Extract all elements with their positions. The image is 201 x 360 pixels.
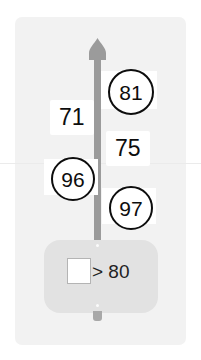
white-square-swatch xyxy=(67,258,91,284)
annotation-81: 81 xyxy=(108,69,154,115)
annotation-97: 97 xyxy=(109,186,153,230)
annotation-96: 96 xyxy=(51,157,95,201)
shaft-tip-icon xyxy=(89,38,106,60)
body-dot-bottom xyxy=(96,304,99,307)
body-dot-top xyxy=(96,244,99,247)
annotation-75: 75 xyxy=(106,131,150,166)
legend-threshold-label: > 80 xyxy=(92,262,130,281)
annotation-71: 71 xyxy=(50,100,94,135)
legend-group: > 80 xyxy=(67,258,130,284)
figure-canvas: > 80 81 71 75 96 97 xyxy=(0,0,201,360)
vertical-shaft xyxy=(94,54,101,252)
shaft-bottom-stub xyxy=(93,311,102,321)
